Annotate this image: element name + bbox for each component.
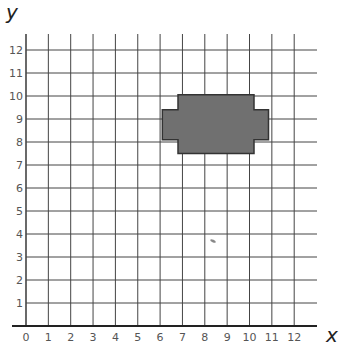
y-tick-label: 11 <box>9 67 23 80</box>
y-tick-label: 1 <box>16 297 23 310</box>
y-tick-label: 9 <box>16 113 23 126</box>
gray-shape <box>162 95 268 154</box>
y-tick-label: 2 <box>16 274 23 287</box>
y-tick-label: 7 <box>16 159 23 172</box>
x-tick-label: 0 <box>23 331 30 344</box>
x-tick-label: 11 <box>265 331 279 344</box>
y-tick-label: 4 <box>16 228 23 241</box>
x-tick-label: 7 <box>179 331 186 344</box>
x-tick-label: 5 <box>134 331 141 344</box>
x-tick-label: 8 <box>201 331 208 344</box>
x-tick-label: 4 <box>112 331 119 344</box>
y-tick-label: 5 <box>16 205 23 218</box>
smudge-mark <box>210 239 217 244</box>
y-tick-label: 8 <box>16 136 23 149</box>
x-tick-label: 10 <box>243 331 257 344</box>
x-tick-label: 2 <box>67 331 74 344</box>
y-tick-label: 10 <box>9 90 23 103</box>
y-tick-label: 3 <box>16 251 23 264</box>
x-tick-label: 1 <box>45 331 52 344</box>
y-tick-label: 12 <box>9 44 23 57</box>
x-axis-label: x <box>325 323 338 347</box>
x-tick-label: 6 <box>157 331 164 344</box>
x-tick-label: 12 <box>287 331 301 344</box>
y-tick-label: 6 <box>16 182 23 195</box>
x-tick-label: 9 <box>224 331 231 344</box>
coordinate-grid: 0123456789101112123456789101112xy <box>0 0 343 357</box>
x-tick-label: 3 <box>90 331 97 344</box>
y-axis-label: y <box>5 0 19 24</box>
